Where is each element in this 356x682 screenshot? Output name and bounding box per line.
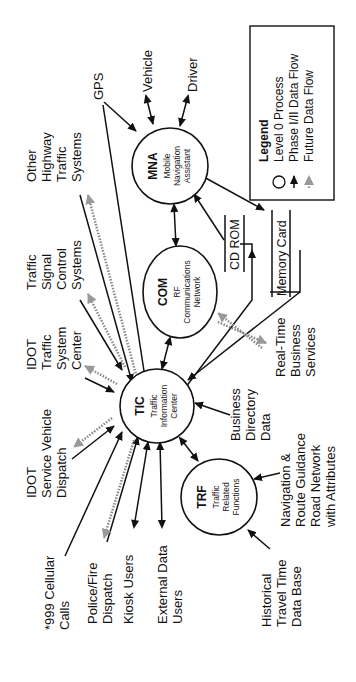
external-real-time-business-services: Real-Time Business Services — [273, 318, 318, 377]
flow-driver-mna — [180, 96, 188, 126]
svg-text:Systems: Systems — [69, 240, 84, 290]
svg-text:Traffic: Traffic — [24, 254, 39, 290]
svg-text:Business: Business — [228, 388, 243, 441]
tic-code: TIC — [133, 396, 147, 416]
svg-text:Traffic: Traffic — [39, 334, 54, 370]
svg-text:Functions: Functions — [231, 479, 241, 516]
svg-text:IDOT: IDOT — [24, 339, 39, 370]
svg-text:Service Vehicle: Service Vehicle — [39, 409, 54, 498]
svg-text:Dispatch: Dispatch — [54, 447, 69, 498]
svg-text:Data: Data — [258, 413, 273, 441]
external-vehicle: Vehicle — [140, 50, 155, 92]
process-com: COM RF Communications Network — [143, 246, 217, 338]
external-idot-traffic-system-center: IDOT Traffic System Center — [24, 327, 84, 370]
legend-item-phase: Phase I/II Data Flow — [287, 54, 301, 162]
flow-kiosk-tic — [134, 442, 148, 527]
svg-text:Travel Time: Travel Time — [274, 560, 289, 627]
external-other-highway-systems: Other Highway Traffic Systems — [24, 132, 84, 182]
flow-historical-trf — [248, 530, 270, 549]
svg-text:Network: Network — [192, 276, 202, 308]
svg-text:Control: Control — [54, 248, 69, 290]
process-tic: TIC Traffic Information Center — [120, 369, 194, 443]
svg-text:Traffic: Traffic — [149, 394, 159, 418]
svg-text:RF: RF — [172, 286, 182, 297]
com-code: COM — [156, 278, 170, 306]
svg-text:Related: Related — [221, 482, 231, 512]
svg-text:Real-Time: Real-Time — [273, 318, 288, 377]
svg-text:with Attributes: with Attributes — [323, 446, 338, 528]
external-navigation-route-guidance: Navigation & Route Guidance Road Network… — [278, 433, 338, 528]
svg-text:Navigation &: Navigation & — [278, 453, 293, 527]
flow-bizdir-tic — [195, 403, 230, 415]
external-business-directory-data: Business Directory Data — [228, 388, 273, 441]
svg-text:Traffic: Traffic — [54, 146, 69, 182]
flow-idottsc-tic — [85, 378, 114, 392]
svg-text:Center: Center — [169, 393, 179, 419]
svg-text:Highway: Highway — [39, 132, 54, 182]
memory-card-label: Memory Card — [275, 220, 289, 296]
flow-cdrom-mna — [194, 194, 224, 240]
flow-future-tic-idottsc — [85, 366, 117, 384]
flow-vehicle-mna — [146, 96, 153, 124]
svg-text:Driver: Driver — [185, 57, 200, 92]
svg-text:Communications: Communications — [182, 260, 192, 323]
svg-text:External Data: External Data — [155, 544, 170, 624]
external-traffic-signal-control: Traffic Signal Control Systems — [24, 240, 84, 290]
trf-code: TRF — [195, 485, 209, 508]
flow-tic-trf — [180, 438, 198, 461]
flow-com-tic — [162, 338, 170, 369]
external-police-fire-dispatch: Police/Fire Dispatch — [85, 563, 115, 624]
svg-text:Police/Fire: Police/Fire — [85, 563, 100, 624]
svg-text:Business: Business — [288, 324, 303, 377]
svg-text:Signal: Signal — [39, 254, 54, 290]
store-cdrom: CD ROM — [225, 215, 244, 272]
svg-text:*999 Cellular: *999 Cellular — [42, 555, 57, 630]
svg-text:GPS: GPS — [91, 72, 106, 100]
store-memory-card: Memory Card — [272, 210, 290, 297]
svg-text:Calls: Calls — [57, 601, 72, 630]
svg-text:Vehicle: Vehicle — [140, 50, 155, 92]
flow-idotsvd-tic — [72, 426, 114, 459]
svg-text:Services: Services — [303, 327, 318, 377]
svg-text:Directory: Directory — [243, 388, 258, 441]
external-gps: GPS — [91, 72, 106, 100]
external-driver: Driver — [185, 57, 200, 92]
svg-text:Assistant: Assistant — [182, 148, 192, 183]
svg-text:Kiosk Users: Kiosk Users — [121, 554, 136, 624]
external-historical-travel-time-db: Historical Travel Time Data Base — [259, 560, 304, 627]
process-trf: TRF Traffic Related Functions — [181, 459, 257, 535]
legend-title: Legend — [257, 119, 271, 162]
svg-text:Systems: Systems — [69, 132, 84, 182]
svg-text:Historical: Historical — [259, 573, 274, 627]
process-mna: MNA Mobile Navigation Assistant — [132, 128, 208, 204]
legend-item-process: Level 0 Process — [272, 77, 286, 162]
flow-signal-tic — [80, 300, 122, 370]
svg-text:Data Base: Data Base — [289, 566, 304, 627]
flow-mna-com — [174, 205, 176, 246]
svg-text:Route Guidance: Route Guidance — [293, 433, 308, 527]
svg-text:IDOT: IDOT — [24, 467, 39, 498]
flow-gps-mna — [104, 102, 136, 131]
external-idot-service-vehicle-dispatch: IDOT Service Vehicle Dispatch — [24, 409, 69, 498]
svg-text:Navigation: Navigation — [172, 146, 182, 186]
dfd-diagram: MNA Mobile Navigation Assistant COM RF C… — [0, 0, 356, 682]
svg-text:Users: Users — [170, 590, 185, 624]
svg-text:Information: Information — [159, 384, 169, 427]
flow-future-rtb-com — [218, 313, 262, 348]
flow-future-tic-police — [104, 440, 134, 538]
mna-code: MNA — [146, 152, 160, 180]
svg-text:Road Network: Road Network — [308, 444, 323, 527]
flow-otherhwy-tic — [80, 195, 132, 382]
legend-item-future: Future Data Flow — [302, 70, 316, 162]
svg-text:Dispatch: Dispatch — [100, 573, 115, 624]
svg-text:Center: Center — [69, 330, 84, 370]
flow-future-tic-signal — [88, 294, 125, 367]
svg-text:Mobile: Mobile — [162, 153, 172, 178]
flow-cellular-tic — [65, 432, 122, 556]
flow-extdata-tic — [160, 442, 162, 527]
cdrom-label: CD ROM — [228, 219, 242, 270]
svg-text:Traffic: Traffic — [211, 485, 221, 509]
external-kiosk-users: Kiosk Users — [121, 554, 136, 624]
flow-navroute-trf — [254, 473, 280, 479]
svg-text:Other: Other — [24, 149, 39, 182]
